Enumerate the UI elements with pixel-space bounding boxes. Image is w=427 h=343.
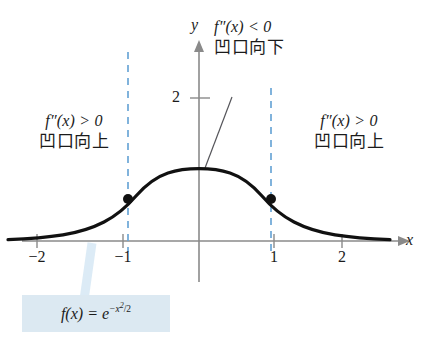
formula-exponent-base: −x — [109, 304, 120, 314]
concave-down-leader-line — [205, 97, 232, 168]
inflection-point-right — [266, 194, 276, 204]
annotation-concave-down: f″(x) < 0 凹口向下 — [214, 18, 364, 57]
x-tick-label-minus-1: −1 — [110, 248, 136, 266]
annotation-concave-down-cjk: 凹口向下 — [214, 37, 364, 57]
formula-callout-box: f(x) = e−x2/2 — [22, 295, 170, 332]
x-tick-label-plus-2: 2 — [329, 248, 355, 266]
annotation-concave-up-left-math: f″(x) > 0 — [8, 112, 140, 131]
figure-canvas: f″(x) < 0 凹口向下 f″(x) > 0 凹口向上 f″(x) > 0 … — [0, 0, 427, 343]
y-axis-label: y — [191, 16, 198, 34]
annotation-concave-up-right: f″(x) > 0 凹口向上 — [282, 112, 416, 151]
inflection-point-left — [123, 194, 133, 204]
annotation-concave-up-right-cjk: 凹口向上 — [282, 131, 416, 151]
formula-text: f(x) = e−x2/2 — [61, 305, 131, 323]
y-axis-arrowhead — [194, 40, 204, 52]
x-tick-label-plus-1: 1 — [261, 248, 287, 266]
formula-lhs: f(x) = e — [61, 305, 109, 322]
formula-exponent-tail: /2 — [124, 304, 131, 314]
annotation-concave-down-math: f″(x) < 0 — [214, 18, 364, 37]
annotation-concave-up-right-math: f″(x) > 0 — [282, 112, 416, 131]
x-axis-label: x — [406, 231, 413, 249]
x-tick-label-minus-2: −2 — [24, 248, 50, 266]
y-tick-label-2: 2 — [164, 88, 180, 106]
annotation-concave-up-left-cjk: 凹口向上 — [8, 131, 140, 151]
annotation-concave-up-left: f″(x) > 0 凹口向上 — [8, 112, 140, 151]
callout-leader-streak — [84, 243, 92, 300]
